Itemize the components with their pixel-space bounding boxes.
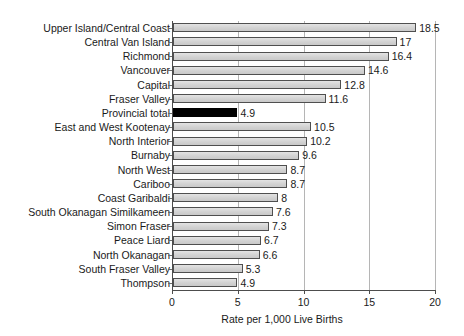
bar-value-label: 7.3 [272, 219, 287, 234]
y-tick-mark [168, 56, 172, 57]
bar [173, 108, 237, 117]
bar [173, 250, 260, 259]
y-tick-mark [168, 85, 172, 86]
bar-row: Upper Island/Central Coast18.5 [0, 21, 464, 36]
category-label: Capital [137, 78, 170, 93]
y-tick-mark [168, 226, 172, 227]
bar [173, 23, 416, 32]
category-label: North Okanagan [93, 248, 170, 263]
y-tick-mark [168, 184, 172, 185]
bar-row: Richmond16.4 [0, 49, 464, 64]
bar-value-label: 8.7 [290, 177, 305, 192]
category-label: Burnaby [131, 148, 170, 163]
bar-value-label: 4.9 [240, 106, 255, 121]
bar [173, 179, 287, 188]
y-tick-mark [168, 212, 172, 213]
y-tick-mark [168, 198, 172, 199]
category-label: Provincial total [102, 106, 170, 121]
category-label: Coast Garibaldi [98, 191, 170, 206]
y-tick-mark [168, 170, 172, 171]
bar [173, 264, 243, 273]
bar-row: East and West Kootenay10.5 [0, 120, 464, 135]
bar [173, 52, 389, 61]
bar-value-label: 14.6 [368, 63, 388, 78]
y-tick-mark [168, 42, 172, 43]
bar [173, 207, 273, 216]
bar-chart: 05101520 Upper Island/Central Coast18.5C… [0, 0, 464, 336]
y-tick-mark [168, 269, 172, 270]
category-label: Richmond [123, 49, 170, 64]
category-label: Vancouver [121, 63, 170, 78]
x-tick-label: 20 [429, 296, 441, 308]
y-tick-mark [168, 155, 172, 156]
bar-value-label: 12.8 [344, 78, 364, 93]
y-tick-mark [168, 240, 172, 241]
bar [173, 222, 269, 231]
bar-value-label: 16.4 [392, 49, 412, 64]
category-label: Upper Island/Central Coast [43, 21, 170, 36]
bar-row: North Okanagan6.6 [0, 248, 464, 263]
bar [173, 122, 311, 131]
x-tick-label: 15 [363, 296, 375, 308]
bar-value-label: 8 [281, 191, 287, 206]
bar [173, 236, 261, 245]
bar [173, 151, 299, 160]
bar-row: South Fraser Valley5.3 [0, 262, 464, 277]
category-label: East and West Kootenay [55, 120, 170, 135]
y-tick-mark [168, 28, 172, 29]
y-tick-mark [168, 255, 172, 256]
bar-row: Peace Liard6.7 [0, 233, 464, 248]
category-label: North West [118, 163, 170, 178]
bar-row: Fraser Valley11.6 [0, 92, 464, 107]
bar-row: Vancouver14.6 [0, 63, 464, 78]
y-tick-mark [168, 113, 172, 114]
y-tick-mark [168, 70, 172, 71]
bar [173, 66, 365, 75]
bar-value-label: 8.7 [290, 163, 305, 178]
y-tick-mark [168, 141, 172, 142]
bar-row: Coast Garibaldi8 [0, 191, 464, 206]
y-tick-mark [168, 99, 172, 100]
bar-value-label: 9.6 [302, 148, 317, 163]
x-axis-title-text: Rate per 1,000 Live Births [121, 313, 342, 325]
bar [173, 278, 237, 287]
category-label: South Fraser Valley [79, 262, 170, 277]
bar-row: Simon Fraser7.3 [0, 219, 464, 234]
bar [173, 165, 287, 174]
bar-value-label: 17 [400, 35, 412, 50]
category-label: Thompson [120, 276, 170, 291]
bar-row: Cariboo8.7 [0, 177, 464, 192]
x-tick-label: 10 [298, 296, 310, 308]
bar [173, 37, 397, 46]
category-label: South Okanagan Similkameen [28, 205, 170, 220]
bar-value-label: 6.6 [263, 248, 278, 263]
category-label: Fraser Valley [109, 92, 170, 107]
bar-value-label: 10.5 [314, 120, 334, 135]
bar [173, 80, 341, 89]
bar-value-label: 11.6 [329, 92, 349, 107]
x-tick-label: 0 [169, 296, 175, 308]
category-label: North Interior [109, 134, 170, 149]
bar-row: Provincial total4.9 [0, 106, 464, 121]
x-axis-title: Rate per 1,000 Live Births [0, 313, 464, 325]
bar-value-label: 7.6 [276, 205, 291, 220]
bar [173, 193, 278, 202]
bar-value-label: 18.5 [419, 21, 439, 36]
y-tick-mark [168, 283, 172, 284]
category-label: Cariboo [133, 177, 170, 192]
bar-row: Burnaby9.6 [0, 148, 464, 163]
bar-row: Thompson4.9 [0, 276, 464, 291]
bar-row: Capital12.8 [0, 78, 464, 93]
category-label: Central Van Island [84, 35, 170, 50]
bar-row: North Interior10.2 [0, 134, 464, 149]
bar-value-label: 6.7 [264, 233, 279, 248]
bar-row: North West8.7 [0, 163, 464, 178]
y-tick-mark [168, 127, 172, 128]
bar [173, 137, 307, 146]
bar-row: Central Van Island17 [0, 35, 464, 50]
bar-value-label: 10.2 [310, 134, 330, 149]
category-label: Simon Fraser [107, 219, 170, 234]
bar [173, 94, 326, 103]
x-tick-label: 5 [235, 296, 241, 308]
bar-value-label: 4.9 [240, 276, 255, 291]
